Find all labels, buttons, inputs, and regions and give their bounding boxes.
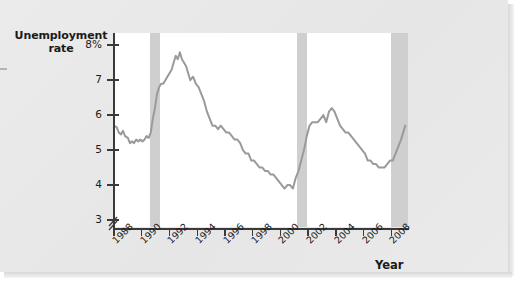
left-edge-crop-mark <box>0 68 7 70</box>
y-axis-tick <box>107 79 119 81</box>
x-axis-title: Year <box>375 258 404 272</box>
y-axis-tick-label: 6 <box>62 108 102 120</box>
y-axis-tick-label: 4 <box>62 178 102 190</box>
unemployment-line-path <box>114 52 405 188</box>
y-axis-tick <box>107 114 119 116</box>
y-axis-tick <box>107 44 119 46</box>
y-axis-tick-label: 3 <box>62 213 102 225</box>
y-axis-tick-label: 5 <box>62 143 102 155</box>
unemployment-line-series <box>114 33 408 227</box>
panel-shadow-right <box>508 4 514 276</box>
axis-break-icon <box>106 212 122 232</box>
figure-root: Unemployment rate 8%76543 19881990199219… <box>0 0 524 290</box>
y-axis-tick <box>107 149 119 151</box>
y-axis-tick <box>107 184 119 186</box>
y-axis-line <box>113 33 115 229</box>
panel-shadow-bottom <box>4 272 512 278</box>
y-axis-tick-label: 7 <box>62 73 102 85</box>
y-axis-tick-label: 8% <box>62 38 102 50</box>
